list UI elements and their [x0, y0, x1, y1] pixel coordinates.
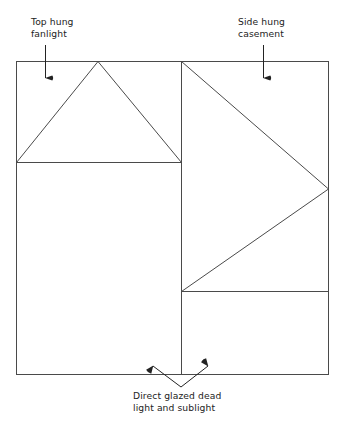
side-hung-casement-symbol: [182, 62, 329, 292]
diagram-canvas: [0, 0, 349, 438]
window-types-diagram: Top hungfanlight Side hungcasement Direc…: [0, 0, 349, 438]
direct-glazed-leader-left: [153, 366, 181, 387]
direct-glazed-leader-right: [181, 366, 208, 387]
top-hung-fanlight-symbol: [17, 62, 182, 163]
label-side-hung-line2: casement: [238, 28, 284, 39]
label-direct-glazed-dead-light: Direct glazed deadlight and sublight: [133, 390, 221, 415]
window-frame-group: [17, 62, 329, 375]
opening-symbols-group: [17, 62, 329, 292]
label-direct-glazed-line1: Direct glazed dead: [133, 390, 221, 401]
frame-divisions-group: [17, 62, 329, 375]
outer-window-frame: [17, 62, 329, 375]
label-side-hung-casement: Side hungcasement: [238, 16, 285, 41]
label-top-hung-fanlight: Top hungfanlight: [31, 16, 74, 41]
label-top-hung-line1: Top hung: [31, 16, 74, 27]
label-direct-glazed-line2: light and sublight: [133, 402, 215, 413]
leader-lines-group: [46, 45, 264, 387]
label-top-hung-line2: fanlight: [31, 28, 67, 39]
label-side-hung-line1: Side hung: [238, 16, 285, 27]
